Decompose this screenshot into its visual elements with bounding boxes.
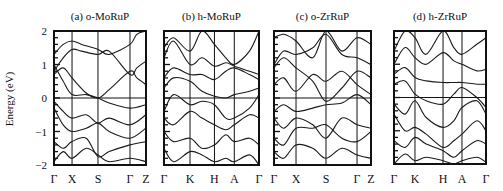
x-tick-label: X (68, 172, 77, 186)
band-panel: (c) o-ZrRuPΓXSΓZ (271, 10, 375, 186)
x-tick-label: Γ (391, 172, 398, 186)
x-tick-label: H (210, 172, 219, 186)
band-curve (164, 31, 259, 65)
panel-title: (d) h-ZrRuP (413, 10, 467, 23)
x-tick-label: Z (367, 172, 374, 186)
band-curve (394, 30, 486, 54)
x-tick-label: Γ (127, 172, 134, 186)
x-tick-label: Γ (354, 172, 361, 186)
band-curve (54, 101, 146, 125)
x-tick-label: S (95, 172, 102, 186)
y-tick-label: −2 (35, 159, 47, 171)
x-tick-label: Γ (51, 172, 58, 186)
band-curve (164, 78, 259, 98)
band-panel: (b) h-MoRuPΓKHAΓ (161, 10, 263, 186)
band-panel: (a) o-MoRuPΓXSΓZ (51, 10, 150, 186)
band-curve (54, 31, 146, 55)
panel-title: (c) o-ZrRuP (296, 10, 349, 23)
panels: (a) o-MoRuPΓXSΓZ(b) h-MoRuPΓKHAΓ(c) o-Zr… (51, 10, 490, 186)
y-axis-label: Energy (eV) (3, 71, 16, 126)
band-curve (274, 95, 371, 112)
band-curve (394, 154, 486, 164)
band-curve (394, 81, 486, 108)
band-curve (394, 137, 486, 157)
band-curve (274, 118, 371, 139)
x-tick-label: X (292, 172, 301, 186)
x-tick-label: Γ (256, 172, 263, 186)
y-tick-label: −1 (35, 126, 47, 138)
band-curve (274, 144, 371, 158)
y-tick-label: 0 (42, 92, 48, 104)
y-tick-labels: 210−1−2 (35, 25, 47, 171)
x-tick-label: Z (142, 172, 149, 186)
band-curve (274, 124, 371, 145)
x-tick-label: A (230, 172, 239, 186)
x-tick-label: Γ (271, 172, 278, 186)
panel-title: (b) h-MoRuP (182, 10, 241, 23)
x-tick-label: K (186, 172, 195, 186)
x-tick-label: K (411, 172, 420, 186)
band-curve (394, 48, 486, 72)
band-panel: (d) h-ZrRuPΓKHAΓ (391, 10, 490, 186)
x-tick-label: Γ (483, 172, 490, 186)
band-curve (54, 68, 146, 98)
band-structure-figure: Energy (eV) 210−1−2 (a) o-MoRuPΓXSΓZ(b) … (0, 0, 503, 191)
band-curve (54, 137, 146, 157)
x-tick-label: S (323, 172, 330, 186)
y-tick-label: 1 (42, 59, 48, 71)
band-curve (274, 71, 371, 94)
band-curve (54, 148, 146, 161)
band-curve (164, 111, 259, 130)
band-curve (274, 31, 371, 58)
y-tick-label: 2 (42, 25, 48, 37)
x-tick-label: Γ (161, 172, 168, 186)
x-tick-label: H (439, 172, 448, 186)
x-tick-label: A (458, 172, 467, 186)
band-curve (164, 132, 259, 149)
band-curve (164, 148, 259, 165)
panel-title: (a) o-MoRuP (71, 10, 129, 23)
band-curve (394, 68, 486, 85)
